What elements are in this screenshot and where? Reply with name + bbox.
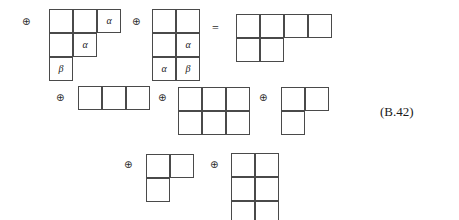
tableau-cell (231, 153, 255, 177)
tableau-cell (146, 154, 170, 178)
tableau-cell (231, 177, 255, 201)
tableau-cell (284, 14, 308, 38)
tableau-cell: α (97, 9, 121, 33)
equals-operator: = (212, 22, 219, 34)
young-tableau (231, 153, 279, 220)
cell-label: α (74, 40, 96, 50)
tableau-cell (260, 14, 284, 38)
tableau-cell (236, 14, 260, 38)
tableau-cell (202, 111, 226, 135)
tableau-cell (152, 33, 176, 57)
tableau-cell: β (49, 57, 73, 81)
tableau-cell (231, 201, 255, 220)
young-tableau: ααβ (49, 9, 121, 81)
tableau-cell (305, 87, 329, 111)
tableau-cell: α (176, 33, 200, 57)
equation-figure: ⊕ααβ⊕ααβ=⊕⊕⊕⊕⊕ (B.42) (0, 0, 459, 220)
young-tableau (281, 87, 329, 135)
oplus-operator: ⊕ (259, 93, 267, 103)
oplus-operator: ⊕ (158, 93, 166, 103)
tableau-cell (260, 38, 284, 62)
tableau-cell (78, 86, 102, 110)
cell-label: α (153, 64, 175, 74)
cell-label: α (98, 16, 120, 26)
tableau-cell (49, 9, 73, 33)
tableau-cell (202, 87, 226, 111)
tableau-cell (49, 33, 73, 57)
tableau-cell (126, 86, 150, 110)
oplus-operator: ⊕ (132, 17, 140, 27)
oplus-operator: ⊕ (124, 160, 132, 170)
tableau-cell (236, 38, 260, 62)
tableau-cell (226, 87, 250, 111)
young-tableau (178, 87, 250, 135)
tableau-cell: α (73, 33, 97, 57)
tableau-cell (176, 9, 200, 33)
tableau-cell (308, 14, 332, 38)
equation-number-label: (B.42) (380, 105, 414, 118)
cell-label: β (50, 64, 72, 74)
tableau-cell (102, 86, 126, 110)
oplus-operator: ⊕ (210, 160, 218, 170)
tableau-cell (255, 201, 279, 220)
cell-label: β (177, 64, 199, 74)
tableau-cell (152, 9, 176, 33)
tableau-cell (281, 87, 305, 111)
tableau-cell (281, 111, 305, 135)
young-tableau (146, 154, 194, 202)
young-tableau (78, 86, 150, 110)
tableau-cell: β (176, 57, 200, 81)
oplus-operator: ⊕ (22, 17, 30, 27)
young-tableau (236, 14, 332, 62)
tableau-cell (255, 153, 279, 177)
oplus-operator: ⊕ (56, 93, 64, 103)
tableau-cell (178, 111, 202, 135)
tableau-cell (170, 154, 194, 178)
cell-label: α (177, 40, 199, 50)
tableau-cell: α (152, 57, 176, 81)
tableau-cell (226, 111, 250, 135)
tableau-cell (178, 87, 202, 111)
tableau-cell (255, 177, 279, 201)
tableau-cell (146, 178, 170, 202)
tableau-cell (73, 9, 97, 33)
young-tableau: ααβ (152, 9, 200, 81)
